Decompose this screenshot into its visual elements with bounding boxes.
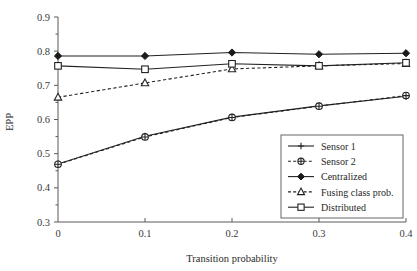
data-marker-diamond-filled [402, 50, 409, 57]
x-tick-label: 0.2 [225, 228, 238, 239]
x-tick-label: 0.4 [399, 228, 413, 239]
y-tick-label: 0.8 [37, 46, 50, 57]
data-marker-diamond-filled [315, 51, 322, 58]
data-marker-square-open [142, 66, 149, 73]
data-marker-square-open [298, 204, 304, 210]
y-axis-ticks: 0.30.40.50.60.70.80.9 [37, 12, 58, 228]
x-tick-label: 0.1 [138, 228, 151, 239]
y-axis-title: EPP [4, 113, 15, 131]
legend-label: Distributed [321, 202, 366, 213]
legend-label: Fusing class prob. [321, 187, 394, 198]
data-marker-diamond-filled [228, 49, 235, 56]
data-marker-circle-plus [403, 92, 410, 99]
legend-label: Centralized [321, 171, 367, 182]
data-marker-circle-plus [142, 134, 149, 141]
data-marker-diamond-filled [54, 52, 61, 59]
data-marker-diamond-filled [141, 52, 148, 59]
y-tick-label: 0.5 [37, 148, 50, 159]
x-tick-label: 0.3 [312, 228, 325, 239]
chart-figure: 0.30.40.50.60.70.80.9 00.10.20.30.4 Sens… [0, 0, 417, 271]
data-marker-circle-plus [298, 158, 304, 164]
y-tick-label: 0.7 [37, 80, 50, 91]
chart-legend[interactable]: Sensor 1Sensor 2CentralizedFusing class … [281, 135, 403, 218]
x-axis-ticks: 00.10.20.30.4 [55, 218, 413, 239]
y-tick-label: 0.6 [37, 114, 50, 125]
x-tick-label: 0 [55, 228, 60, 239]
series-centralized [54, 49, 409, 60]
y-tick-label: 0.4 [37, 182, 51, 193]
data-marker-circle-plus [316, 103, 323, 110]
y-tick-label: 0.3 [37, 217, 50, 228]
line-chart: 0.30.40.50.60.70.80.9 00.10.20.30.4 Sens… [0, 0, 417, 271]
legend-label: Sensor 2 [321, 156, 356, 167]
data-marker-square-open [403, 59, 410, 66]
y-tick-label: 0.9 [37, 12, 50, 23]
data-marker-square-open [316, 63, 323, 70]
legend-label: Sensor 1 [321, 141, 356, 152]
data-marker-square-open [229, 61, 236, 68]
data-marker-circle-plus [55, 161, 62, 168]
data-marker-circle-plus [229, 114, 236, 121]
data-marker-square-open [55, 63, 62, 70]
x-axis-title: Transition probability [186, 253, 278, 264]
